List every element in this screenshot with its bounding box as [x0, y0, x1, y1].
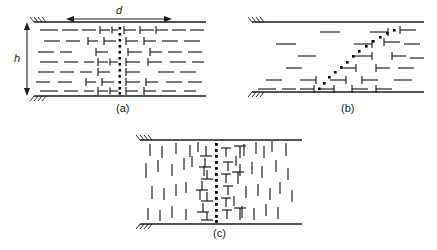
tee-symbol-down	[201, 192, 213, 201]
tee-symbol-down	[196, 181, 208, 190]
slip-plane-row	[266, 76, 412, 84]
slip-plane-row	[298, 52, 424, 60]
panel-b-caption: (b)	[341, 102, 354, 114]
tee-symbol-down	[201, 212, 213, 220]
slip-plane-row	[44, 37, 200, 45]
figure-svg: h d	[0, 0, 437, 250]
tee-symbol-down	[199, 158, 211, 167]
panel-b-bottom-boundary	[248, 92, 424, 97]
panel-c: (c)	[136, 135, 302, 239]
tee-symbol-down	[201, 170, 213, 179]
tee-symbol-up	[221, 198, 231, 207]
slip-plane-row	[276, 38, 420, 48]
tee-symbol-down	[197, 203, 209, 212]
slip-plane-row	[286, 64, 414, 72]
dimension-h-label: h	[14, 52, 20, 64]
dimension-d-label: d	[116, 4, 123, 16]
tee-symbol-up	[223, 186, 233, 195]
panel-c-caption: (c)	[213, 227, 226, 239]
panel-b-top-boundary	[248, 17, 424, 22]
panel-a-caption: (a)	[116, 102, 129, 114]
tee-symbol-up	[232, 172, 244, 184]
panel-b: (b)	[248, 17, 424, 114]
panel-c-tilt-boundary-dots	[215, 143, 218, 223]
panel-b-dislocations	[258, 26, 424, 93]
dimension-h: h	[14, 22, 30, 96]
panel-a: h d	[14, 4, 206, 114]
tee-symbol-down	[200, 146, 212, 156]
panel-c-random-dislocations	[146, 141, 292, 221]
tee-symbol-up	[234, 208, 246, 220]
tee-symbol-up	[222, 210, 232, 219]
slip-plane-row	[320, 26, 416, 36]
panel-c-top-boundary	[136, 135, 302, 140]
slip-plane-row	[38, 68, 196, 76]
dimension-d: d	[66, 4, 172, 22]
tee-symbol-up	[223, 162, 233, 171]
panel-a-tilt-boundary-dots	[119, 27, 122, 95]
panel-c-wall-symbols-left	[196, 146, 213, 220]
slip-plane-row	[40, 58, 204, 66]
tee-symbol-up	[221, 148, 231, 157]
tee-symbol-up	[221, 174, 231, 183]
slip-plane-row	[40, 26, 204, 34]
panel-a-bottom-boundary	[30, 96, 206, 101]
panel-a-dislocations	[36, 26, 204, 95]
dislocation-boundary-figure: h d	[0, 0, 437, 250]
slip-plane-row	[40, 87, 196, 95]
